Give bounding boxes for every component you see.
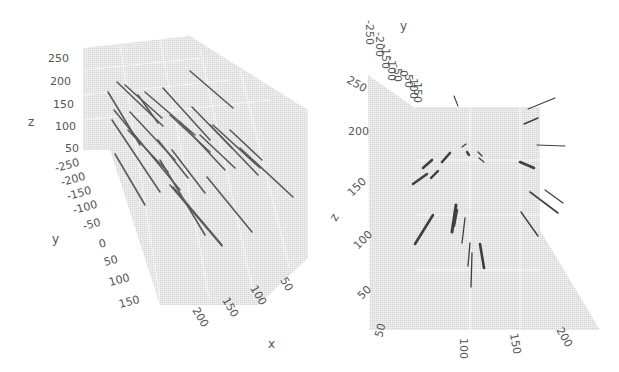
left-y-tick: 0	[97, 237, 107, 251]
left-z-tick: 200	[50, 75, 71, 88]
right-z-axis-label: z	[326, 211, 341, 223]
left-y-tick: 150	[117, 293, 141, 311]
right-plot-canvas: z 250 200 150 100 50 y -250 -200 -150 -1…	[310, 0, 619, 372]
left-plot-canvas: z 250 200 150 100 50 y -250 -200 -150 -1…	[0, 0, 309, 372]
right-y-axis-label: y	[400, 19, 407, 33]
right-x-tick: 150	[507, 332, 523, 355]
right-z-tick: 200	[348, 125, 369, 138]
left-x-tick: 200	[189, 305, 211, 330]
left-y-tick: 100	[107, 271, 131, 289]
right-y-tick: 150	[411, 82, 424, 103]
left-y-tick: 50	[102, 253, 119, 269]
right-z-tick: 250	[345, 73, 370, 95]
left-z-axis-label: z	[28, 115, 34, 129]
left-y-tick: -50	[81, 216, 102, 233]
left-x-axis-label: x	[268, 337, 275, 351]
left-z-tick: 100	[55, 120, 76, 133]
right-x-tick: 100	[457, 338, 470, 359]
left-z-tick: 250	[48, 52, 69, 65]
left-y-axis-label: y	[52, 232, 59, 246]
left-z-tick: 150	[53, 98, 74, 111]
right-3d-plot[interactable]: z 250 200 150 100 50 y -250 -200 -150 -1…	[310, 0, 619, 372]
left-z-tick: 50	[65, 142, 79, 155]
right-z-tick: 150	[345, 175, 369, 199]
left-3d-plot[interactable]: z 250 200 150 100 50 y -250 -200 -150 -1…	[0, 0, 309, 372]
